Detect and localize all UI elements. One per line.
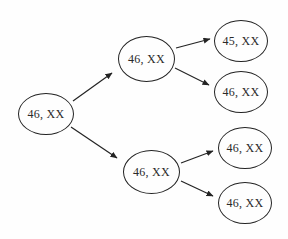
edge-branch-bottom-to-leaf-bottom-2 — [181, 181, 213, 196]
edge-root-to-branch-top — [73, 73, 112, 101]
edge-branch-bottom-to-leaf-bottom-1 — [181, 151, 213, 163]
edge-root-to-branch-bottom — [71, 127, 117, 158]
node-leaf-top-1: 45, XX — [214, 20, 268, 62]
lineage-tree-diagram: 46, XX 46, XX 46, XX 45, XX 46, XX 46, X… — [0, 0, 288, 239]
node-leaf-bottom-1: 46, XX — [218, 127, 272, 169]
node-root: 46, XX — [18, 93, 74, 135]
node-leaf-bottom-2: 46, XX — [218, 182, 272, 224]
edge-branch-top-to-leaf-top-2 — [175, 68, 209, 85]
node-leaf-top-2: 46, XX — [214, 71, 268, 113]
node-branch-top: 46, XX — [118, 36, 175, 82]
node-branch-bottom: 46, XX — [123, 150, 180, 194]
edge-branch-top-to-leaf-top-1 — [176, 39, 210, 48]
